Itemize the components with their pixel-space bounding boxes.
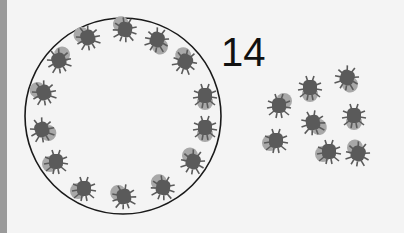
bug-icon [109,182,138,211]
outside-bug-group [262,63,374,170]
bug-icon [71,22,103,54]
bug-icon [27,77,59,109]
bug-icon [342,137,374,169]
bug-icon [315,140,341,164]
bug-icon [168,44,202,78]
bug-illustration [0,0,404,233]
bug-icon [42,150,68,174]
grouping-circle [25,18,221,214]
bug-icon [148,173,177,202]
bug-icon [267,93,292,118]
bug-icon [331,63,363,95]
bug-icon [262,129,288,153]
bug-icon [43,44,75,76]
bug-icon [342,104,366,130]
bug-icon [298,76,322,102]
bug-icon [70,177,96,201]
bug-icon [193,116,217,142]
count-label: 14 [221,32,266,72]
bug-icon [27,114,59,146]
bug-icon [299,109,328,138]
bug-icon [193,84,217,110]
